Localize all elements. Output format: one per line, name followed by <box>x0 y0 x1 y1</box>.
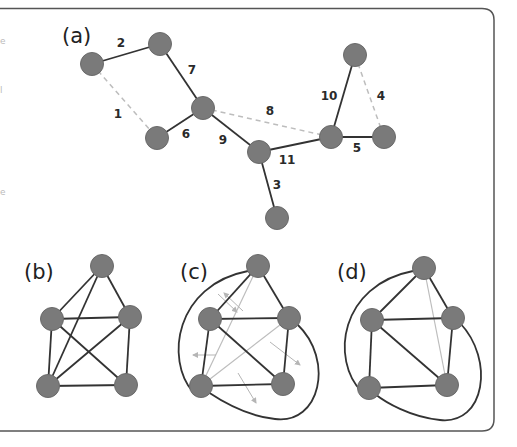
node-n5 <box>248 141 271 164</box>
arrow-icon <box>238 373 256 403</box>
edge-ml-mr <box>372 318 453 320</box>
edge-weight-label: 8 <box>266 104 274 118</box>
panel-d-nodes <box>358 257 465 400</box>
panel-d-graph: (d) <box>337 257 481 421</box>
edge-1 <box>92 64 157 138</box>
edge-weight-label: 1 <box>114 107 122 121</box>
node-bl <box>190 375 213 398</box>
edge-weight-label: 10 <box>321 89 338 103</box>
edge-weight-label: 9 <box>219 133 227 147</box>
node-t <box>91 255 114 278</box>
node-br <box>115 374 138 397</box>
node-ml <box>199 308 222 331</box>
node-n8 <box>373 126 396 149</box>
node-ml <box>361 309 384 332</box>
node-t <box>413 257 436 280</box>
panel-a-nodes <box>81 33 396 230</box>
panel-a-weighted-graph: (a) 1234567891011 <box>62 24 396 230</box>
cutoff-text-fragments: ele <box>0 36 6 197</box>
edge-weight-label: 5 <box>353 141 361 155</box>
edge-weight-label: 2 <box>117 36 125 50</box>
panel-d-edges <box>369 268 453 388</box>
edge-bl-br <box>201 384 283 386</box>
node-bl <box>37 375 60 398</box>
node-bl <box>358 377 381 400</box>
node-n2 <box>149 33 172 56</box>
node-ml <box>41 308 64 331</box>
node-n9 <box>266 207 289 230</box>
node-mr <box>278 307 301 330</box>
edge-weight-label: 6 <box>182 127 190 141</box>
node-mr <box>442 307 465 330</box>
node-n3 <box>192 97 215 120</box>
panel-d-label: (d) <box>337 260 367 284</box>
text-fragment: e <box>0 36 6 46</box>
node-n1 <box>81 53 104 76</box>
panel-c-label: (c) <box>180 260 208 284</box>
edge-weight-label: 3 <box>273 178 281 192</box>
node-mr <box>119 306 142 329</box>
edge-weight-label: 7 <box>188 63 196 77</box>
figure-frame <box>0 9 494 432</box>
edge-weight-label: 11 <box>279 153 296 167</box>
panel-c-graph: (c) <box>179 255 319 420</box>
node-br <box>436 374 459 397</box>
node-n6 <box>320 126 343 149</box>
edge-ml-br <box>210 319 283 384</box>
node-br <box>272 373 295 396</box>
node-n4 <box>146 127 169 150</box>
graph-figure: ele (a) 1234567891011 (b) (c) (d) <box>0 0 517 447</box>
curved-edge <box>375 323 481 420</box>
text-fragment: l <box>0 85 3 95</box>
panel-b-graph: (b) <box>24 255 142 398</box>
panel-b-label: (b) <box>24 260 54 284</box>
panel-a-label: (a) <box>62 24 91 48</box>
node-n7 <box>344 44 367 67</box>
node-t <box>247 255 270 278</box>
edge-weight-label: 4 <box>377 89 385 103</box>
text-fragment: e <box>0 187 6 197</box>
